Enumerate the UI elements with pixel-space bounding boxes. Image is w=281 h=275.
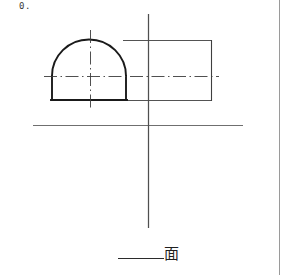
- technical-drawing: [0, 0, 281, 275]
- side-rectangle: [123, 40, 212, 101]
- answer-blank[interactable]: [118, 258, 164, 259]
- page-margin-rule: [279, 0, 280, 275]
- drawing-sheet: 0.: [0, 0, 281, 275]
- view-label: 面: [164, 246, 179, 262]
- center-lines: [44, 30, 219, 111]
- d-shape-profile: [51, 39, 127, 100]
- answer-row: 面: [118, 246, 179, 262]
- d-shape-arc: [52, 39, 126, 76]
